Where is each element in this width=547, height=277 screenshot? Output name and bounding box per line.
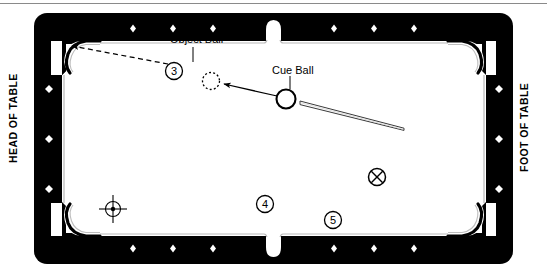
table-frame <box>34 13 513 264</box>
rail-bottom-right <box>276 236 448 261</box>
ball-3-label: 3 <box>171 65 177 77</box>
table-graphic: 3 4 5 <box>0 0 547 277</box>
cue-ball <box>277 90 296 109</box>
ball-5-label: 5 <box>330 214 336 226</box>
object-ball-3: 3 <box>166 63 183 80</box>
pocket-top-center <box>266 20 281 41</box>
ball-4-label: 4 <box>262 198 268 210</box>
object-ball-label: Object Ball <box>170 33 223 45</box>
pool-table-diagram: 3 4 5 HEAD OF TABLE FOOT OF <box>0 0 547 277</box>
head-of-table-label: HEAD OF TABLE <box>8 87 20 163</box>
cue-ball-label: Cue Ball <box>272 64 314 76</box>
pocket-bottom-center <box>266 236 281 257</box>
ball-5: 5 <box>325 212 342 229</box>
ball-x <box>369 169 386 186</box>
rail-bottom-left <box>100 236 272 261</box>
ghost-ball <box>203 73 220 90</box>
ball-4: 4 <box>257 196 274 213</box>
foot-of-table-label: FOOT OF TABLE <box>519 96 531 172</box>
rail-top-right <box>276 16 448 41</box>
